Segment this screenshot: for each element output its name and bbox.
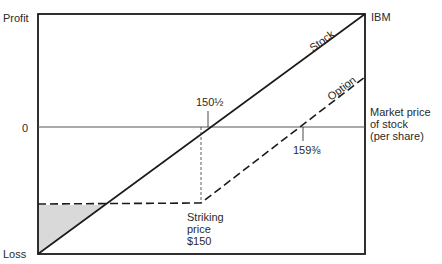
option-breakeven-label: 159⅜ [293,144,321,156]
x-axis-label: Market price of stock (per share) [370,106,431,142]
y-label-profit: Profit [3,12,29,24]
stock-breakeven-label: 150½ [196,96,224,108]
striking-line-1: Striking [187,211,224,223]
x-axis-line-3: (per share) [370,130,431,142]
x-axis-line-1: Market price [370,106,431,118]
y-label-zero: 0 [22,122,28,134]
option-line-label: Option [325,74,358,103]
x-axis-line-2: of stock [370,118,431,130]
striking-line-3: $150 [187,235,224,247]
striking-line-2: price [187,223,224,235]
corner-label-ibm: IBM [371,11,391,23]
striking-price-label: Striking price $150 [187,211,224,247]
stock-line-label: Stock [307,27,337,53]
y-label-loss: Loss [3,248,26,260]
